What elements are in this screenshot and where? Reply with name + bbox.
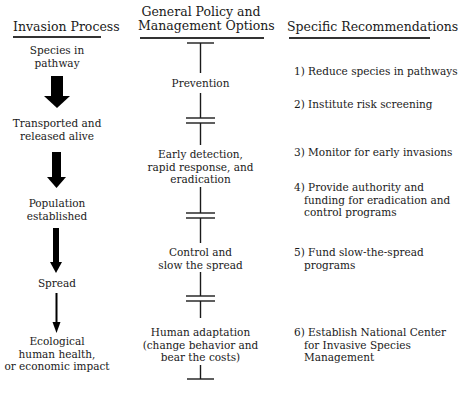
stage-line: Transported and [7,117,107,130]
option-line: eradication [140,173,261,186]
recommendation-line: funding for eradication and [294,194,450,207]
recommendation-4: 4) Provide authority and funding for era… [294,181,450,219]
stage-spread: Spread [7,277,107,290]
recommendation-2: 2) Institute risk screening [294,98,433,111]
recommendation-line: control programs [294,206,450,219]
recommendation-line: programs [294,259,424,272]
down-arrow-icon [44,76,70,108]
option-line: bear the costs) [136,351,265,364]
stage-line: established [7,210,107,223]
recommendation-6: 6) Establish National Center for Invasiv… [294,326,446,364]
stage-line: human health, [2,348,112,361]
stage-line: released alive [7,130,107,143]
option-line: (change behavior and [136,339,265,352]
recommendation-5: 5) Fund slow-the-spread programs [294,246,424,271]
option-early-detection: Early detection, rapid response, and era… [140,148,261,186]
option-line: Control and [140,246,261,259]
option-human-adaptation: Human adaptation (change behavior and be… [136,326,265,364]
recommendation-1: 1) Reduce species in pathways [294,65,458,78]
stage-impact: Ecological human health, or economic imp… [2,335,112,373]
recommendation-line: 3) Monitor for early invasions [294,146,452,158]
stage-population-established: Population established [7,197,107,222]
option-prevention: Prevention [140,77,261,90]
stage-line: Population [7,197,107,210]
stage-line: Spread [7,277,107,290]
down-arrow-icon [53,293,61,333]
recommendation-3: 3) Monitor for early invasions [294,146,452,159]
down-arrow-icon [50,228,62,273]
option-line: Early detection, [140,148,261,161]
recommendation-line: 2) Institute risk screening [294,98,433,110]
option-line: slow the spread [140,259,261,272]
recommendation-line: 6) Establish National Center [294,326,446,339]
stage-line: Species in [7,44,107,57]
recommendation-line: for Invasive Species [294,339,446,352]
stage-transported-released: Transported and released alive [7,117,107,142]
option-line: rapid response, and [140,161,261,174]
stage-line: Ecological [2,335,112,348]
option-control: Control and slow the spread [140,246,261,271]
stage-species-in-pathway: Species in pathway [7,44,107,69]
recommendation-line: 5) Fund slow-the-spread [294,246,424,259]
recommendation-line: 1) Reduce species in pathways [294,65,458,77]
option-line: Prevention [140,77,261,90]
option-line: Human adaptation [136,326,265,339]
recommendation-line: 4) Provide authority and [294,181,450,194]
stage-line: pathway [7,57,107,70]
down-arrow-icon [47,152,66,188]
recommendation-line: Management [294,351,446,364]
stage-line: or economic impact [2,360,112,373]
